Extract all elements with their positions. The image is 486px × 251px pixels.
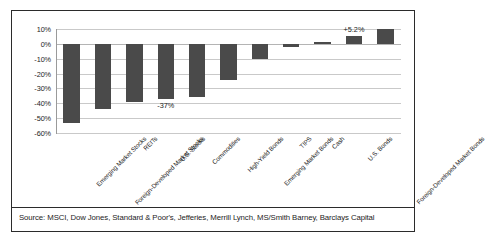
chart-figure: 10%0%-10%-20%-30%-40%-50%-60% -37%+5.2% …: [11, 10, 415, 232]
category-label-3: U.S. Stocks: [178, 135, 206, 163]
y-axis-tick-6: -50%: [34, 114, 51, 123]
x-axis-category-labels: Emerging Market StocksForeign-Developed …: [56, 135, 401, 207]
bar-6: [252, 44, 269, 59]
bar-10: [377, 29, 394, 44]
bar-8: [314, 42, 331, 43]
bar-series: -37%+5.2%: [56, 29, 401, 133]
category-label-5: High-Yield Bonds: [245, 135, 284, 174]
y-axis-tick-4: -30%: [34, 84, 51, 93]
plot-area: 10%0%-10%-20%-30%-40%-50%-60% -37%+5.2% …: [12, 11, 414, 207]
bar-7: [283, 44, 300, 47]
bar-5: [220, 44, 237, 80]
category-label-10: Foreign-Developed Market Bonds: [415, 135, 485, 205]
bar-2: [126, 44, 143, 102]
y-axis-tick-0: 10%: [37, 25, 51, 34]
source-note: Source: MSCI, Dow Jones, Standard & Poor…: [19, 213, 374, 222]
gridline-7: [56, 133, 401, 134]
y-axis-tick-2: -10%: [34, 54, 51, 63]
value-label-0: -37%: [157, 101, 174, 110]
y-axis-tick-7: -60%: [34, 129, 51, 138]
value-label-1: +5.2%: [344, 25, 365, 34]
category-label-0: Emerging Market Stocks: [94, 135, 147, 188]
y-axis-tick-labels: 10%0%-10%-20%-30%-40%-50%-60%: [12, 29, 54, 133]
bar-0: [63, 44, 80, 123]
y-axis-tick-5: -40%: [34, 99, 51, 108]
category-label-9: U.S. Bonds: [366, 135, 393, 162]
y-axis-tick-1: 0%: [41, 39, 51, 48]
category-label-4: Commodities: [211, 135, 242, 166]
bar-3: [158, 44, 175, 99]
bar-9: [346, 36, 363, 44]
y-axis-tick-3: -20%: [34, 69, 51, 78]
bar-1: [95, 44, 112, 109]
footer-divider: [12, 207, 414, 208]
category-label-7: TIPS: [298, 135, 313, 150]
bar-4: [189, 44, 206, 97]
